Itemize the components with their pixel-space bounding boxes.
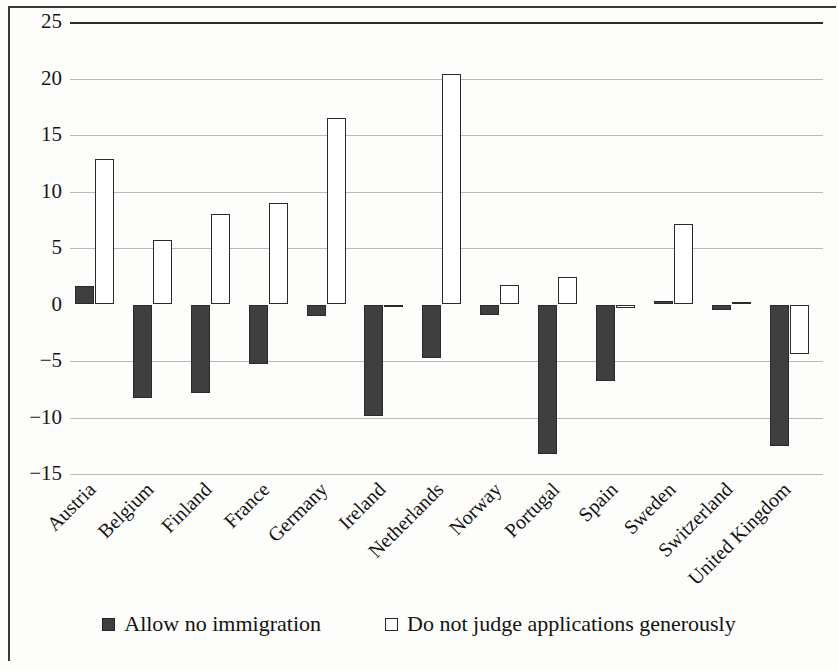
bar-group: [244, 22, 302, 474]
zero-baseline: [70, 22, 823, 24]
bar: [712, 305, 731, 311]
bar: [790, 305, 809, 355]
bar-group: [765, 22, 823, 474]
bar-group: [591, 22, 649, 474]
x-tick-label: Finland: [157, 478, 216, 537]
x-tick-label-text: United Kingdom: [684, 478, 795, 589]
bar-group: [533, 22, 591, 474]
y-tick-label: 15: [8, 124, 62, 145]
x-tick-label: Ireland: [334, 478, 390, 534]
y-tick-label: −10: [8, 407, 62, 428]
x-tick-label-text: France: [220, 478, 274, 532]
legend-label: Allow no immigration: [124, 612, 321, 636]
x-tick-label: France: [220, 478, 274, 532]
bar: [211, 214, 230, 304]
bar: [558, 277, 577, 304]
x-tick-label-text: Spain: [573, 478, 621, 526]
x-tick-label: United Kingdom: [684, 478, 795, 589]
bar: [95, 159, 114, 305]
x-axis-category-labels: AustriaBelgiumFinlandFranceGermanyIrelan…: [70, 474, 823, 604]
x-tick-label: Austria: [43, 478, 100, 535]
open-square-icon: [385, 618, 398, 631]
bar-group: [186, 22, 244, 474]
bar-group: [302, 22, 360, 474]
plot-area: [70, 22, 823, 474]
bar: [307, 305, 326, 316]
bar: [674, 224, 693, 304]
y-tick-label: 0: [8, 294, 62, 315]
bar: [133, 305, 152, 399]
bar: [75, 286, 94, 304]
legend-entry: Allow no immigration: [102, 612, 321, 636]
y-tick-label: 10: [8, 181, 62, 202]
bar-group: [475, 22, 533, 474]
y-axis-tick-labels: 2520151050−5−10−15: [0, 22, 62, 474]
bar: [654, 301, 673, 304]
bar: [770, 305, 789, 446]
bar: [480, 305, 499, 315]
x-tick-label: Norway: [444, 478, 505, 539]
x-tick-label-text: Finland: [157, 478, 216, 537]
bar: [364, 305, 383, 417]
bar: [732, 302, 751, 304]
x-tick-label: Portugal: [500, 478, 563, 541]
bar: [500, 285, 519, 304]
bar: [422, 305, 441, 358]
x-tick-label-text: Austria: [43, 478, 100, 535]
chart-legend: Allow no immigrationDo not judge applica…: [0, 612, 838, 636]
legend-entry: Do not judge applications generously: [385, 612, 736, 636]
chart-figure: 2520151050−5−10−15 AustriaBelgiumFinland…: [0, 0, 838, 671]
bar: [616, 305, 635, 308]
bar-group: [128, 22, 186, 474]
bar: [269, 203, 288, 305]
bar: [191, 305, 210, 393]
x-tick-label-text: Germany: [263, 478, 331, 546]
legend-label: Do not judge applications generously: [407, 612, 736, 636]
x-tick-label-text: Portugal: [500, 478, 563, 541]
bar: [153, 240, 172, 304]
bar: [249, 305, 268, 365]
x-tick-label-text: Belgium: [94, 478, 158, 542]
bar-group: [70, 22, 128, 474]
bar-group: [360, 22, 418, 474]
dark-square-icon: [102, 618, 115, 631]
x-tick-label-text: Ireland: [334, 478, 390, 534]
y-tick-label: 25: [8, 11, 62, 32]
y-tick-label: −5: [8, 350, 62, 371]
bar-group: [707, 22, 765, 474]
y-tick-label: −15: [8, 463, 62, 484]
bar: [596, 305, 615, 382]
bar-group: [649, 22, 707, 474]
x-tick-label: Spain: [573, 478, 621, 526]
x-tick-label-text: Norway: [444, 478, 505, 539]
bar-group: [418, 22, 476, 474]
bar: [327, 118, 346, 304]
y-tick-label: 20: [8, 68, 62, 89]
bar: [538, 305, 557, 454]
bar: [384, 305, 403, 307]
x-tick-label: Germany: [263, 478, 331, 546]
figure-frame-top-rule: [8, 6, 836, 8]
y-tick-label: 5: [8, 237, 62, 258]
x-tick-label: Belgium: [94, 478, 158, 542]
bar: [442, 74, 461, 305]
